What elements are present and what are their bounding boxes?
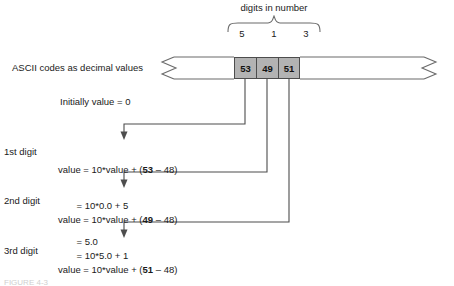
initial-value-note: Initially value = 0 <box>60 96 131 108</box>
step-label-2: 2nd digit <box>4 195 40 206</box>
step-formula-3-line1: value = 10*value + (51 – 48) <box>58 264 177 276</box>
step-formula-2-line1: value = 10*value + (49 – 48) <box>58 214 177 226</box>
arrowhead-digit-1 <box>121 132 128 141</box>
step-3-line1-pre: value = 10*value + ( <box>58 264 143 275</box>
step-2-line1-bold: 49 <box>143 214 154 225</box>
ascii-cell-2: 51 <box>278 57 300 79</box>
brace-label: digits in number <box>226 2 322 14</box>
step-2-line1-post: – 48) <box>153 214 177 225</box>
array-break-right-icon <box>422 57 436 79</box>
step-3-line1-post: – 48) <box>153 264 177 275</box>
array-label: ASCII codes as decimal values <box>12 62 143 74</box>
step-1-line1-post: – 48) <box>153 164 177 175</box>
digits-above-cells: 5 1 3 <box>226 28 322 39</box>
digit-above-0: 5 <box>226 28 258 39</box>
ascii-cell-0: 53 <box>234 57 256 79</box>
step-formula-1-line1: value = 10*value + (53 – 48) <box>58 164 177 176</box>
step-label-1: 1st digit <box>4 146 37 157</box>
step-formula-3: value = 10*value + (51 – 48) = 10*51.0 +… <box>58 240 177 286</box>
ascii-cell-1: 49 <box>256 57 278 79</box>
step-1-line1-pre: value = 10*value + ( <box>58 164 143 175</box>
connector-digit-1 <box>124 79 245 132</box>
figure-caption: FIGURE 4-3 <box>4 277 48 286</box>
step-label-3: 3rd digit <box>4 245 38 256</box>
digit-above-2: 3 <box>290 28 322 39</box>
step-3-line1-bold: 51 <box>143 264 154 275</box>
step-1-line1-bold: 53 <box>143 164 154 175</box>
array-break-left-icon <box>162 57 176 79</box>
digit-above-1: 1 <box>258 28 290 39</box>
ascii-cell-row: 53 49 51 <box>234 57 300 79</box>
step-2-line1-pre: value = 10*value + ( <box>58 214 143 225</box>
